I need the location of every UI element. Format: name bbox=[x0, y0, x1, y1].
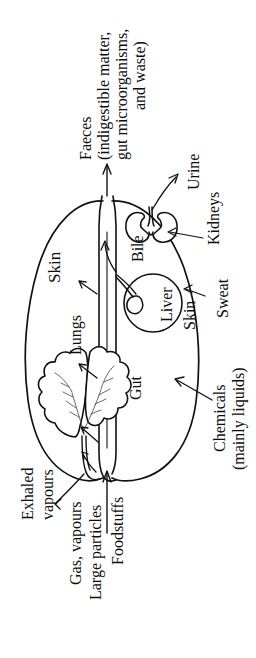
urine-arrow bbox=[152, 174, 178, 210]
label-liver: Liver bbox=[159, 287, 175, 322]
chemicals-arrow bbox=[175, 377, 212, 400]
large-particles-arrow bbox=[81, 427, 98, 442]
faeces-arrow bbox=[103, 164, 111, 196]
label-exhaled-line2: vapours bbox=[40, 469, 56, 520]
label-kidneys: Kidneys bbox=[206, 192, 222, 245]
label-skin-right: Skin bbox=[182, 301, 198, 330]
lung-lobe-left bbox=[38, 349, 87, 438]
label-large-particles: Large particles bbox=[88, 505, 104, 600]
kidney-right bbox=[153, 213, 177, 243]
label-faeces-line4: and waste) bbox=[132, 41, 148, 110]
bladder-junction bbox=[149, 232, 153, 235]
skin-outline-left bbox=[25, 201, 103, 481]
lungs-organ bbox=[38, 347, 131, 480]
sweat-arrow bbox=[184, 285, 205, 296]
bile-arrow bbox=[101, 241, 116, 272]
gut-absorption-arrow-2 bbox=[79, 281, 97, 294]
gallbladder bbox=[127, 296, 143, 314]
label-gas-vapours: Gas, vapours bbox=[68, 501, 84, 585]
label-foodstuffs: Foodstuffs bbox=[110, 497, 126, 565]
ureter-left bbox=[148, 207, 150, 226]
label-skin-left: Skin bbox=[46, 252, 63, 283]
label-faeces-line3: gut microorganisms, bbox=[114, 29, 130, 160]
label-faeces-line2: (indigestible matter, bbox=[96, 32, 112, 160]
label-chemicals-line1: Chemicals bbox=[212, 384, 228, 452]
skin-outline-right bbox=[112, 201, 199, 481]
label-chemicals-line2: (mainly liquids) bbox=[231, 367, 247, 470]
label-urine: Urine bbox=[186, 154, 202, 190]
gut-wall-right bbox=[112, 196, 116, 474]
trachea-opening bbox=[86, 472, 99, 480]
label-exhaled-line1: Exhaled bbox=[20, 468, 36, 520]
diagram-canvas: Faeces (indigestible matter, gut microor… bbox=[0, 0, 256, 658]
label-faeces-line1: Faeces bbox=[78, 116, 94, 160]
label-sweat: Sweat bbox=[215, 279, 231, 318]
label-bile: Bile bbox=[130, 235, 146, 262]
label-gut: Gut bbox=[128, 376, 144, 400]
label-lungs: Lungs bbox=[68, 315, 84, 355]
